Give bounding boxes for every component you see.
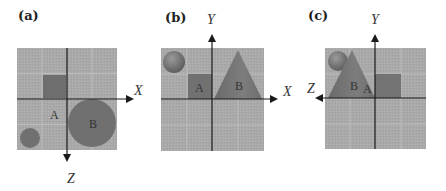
panel-a: (a) A B X Z <box>17 8 143 186</box>
object-label-a: A <box>195 81 204 95</box>
object-label-b: B <box>235 79 243 93</box>
small-circle <box>20 128 40 148</box>
object-label-b: B <box>89 117 97 131</box>
square-a <box>43 75 66 98</box>
axis-label-x: X <box>133 83 143 98</box>
panel-label-a: (a) <box>18 8 39 23</box>
axis-label-y: Y <box>371 12 381 27</box>
object-label-a: A <box>50 108 59 122</box>
axis-label-x: X <box>282 84 292 99</box>
object-label-a: A <box>363 82 372 96</box>
panel-b: (b) A B X Y <box>161 10 292 151</box>
object-label-b: B <box>350 79 358 93</box>
sphere <box>163 51 185 73</box>
panel-c: (c) B A Z Y <box>307 8 426 149</box>
axis-label-z: Z <box>67 171 75 186</box>
panel-label-b: (b) <box>165 10 186 25</box>
axis-label-z: Z <box>307 81 315 96</box>
square-a <box>375 74 401 98</box>
orthographic-views-diagram: (a) A B X Z (b) <box>0 0 446 191</box>
axis-label-y: Y <box>207 12 217 27</box>
panel-label-c: (c) <box>308 8 328 23</box>
